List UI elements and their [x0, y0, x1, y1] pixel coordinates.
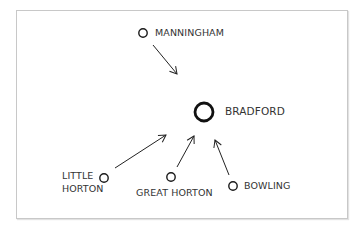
- arrow-manningham-to-bradford: [153, 45, 177, 74]
- arrow-bowling-to-bradford: [215, 140, 229, 175]
- great-horton-label: GREAT HORTON: [136, 187, 213, 199]
- manningham-node-icon: [139, 29, 147, 37]
- little-horton-label-line2: HORTON: [62, 183, 104, 195]
- manningham-label: MANNINGHAM: [155, 27, 224, 39]
- bradford-node-icon: [195, 103, 213, 121]
- great-horton-node-icon: [167, 173, 175, 181]
- arrow-great-horton-to-bradford: [177, 136, 194, 167]
- bradford-label: BRADFORD: [225, 105, 285, 117]
- arrow-little-horton-to-bradford: [115, 135, 166, 168]
- little-horton-node-icon: [100, 174, 108, 182]
- little-horton-label-line1: LITTLE: [62, 170, 93, 182]
- bowling-node-icon: [229, 182, 237, 190]
- bowling-label: BOWLING: [244, 180, 290, 192]
